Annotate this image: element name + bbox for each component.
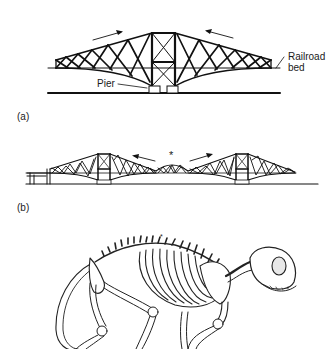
eye-socket bbox=[272, 257, 286, 275]
neck bbox=[226, 262, 250, 276]
tibia bbox=[136, 316, 150, 349]
skeleton-star-marker: * bbox=[160, 233, 163, 240]
tail bbox=[56, 263, 92, 349]
hind-foot bbox=[76, 335, 98, 349]
radius bbox=[188, 326, 214, 349]
scapula bbox=[200, 262, 230, 304]
pelvis bbox=[89, 258, 104, 293]
cat-skeleton: * bbox=[0, 0, 336, 349]
femur bbox=[104, 282, 155, 310]
ulna bbox=[181, 312, 183, 349]
